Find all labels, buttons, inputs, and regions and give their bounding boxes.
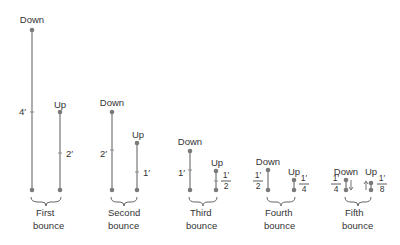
start-point-dot [30,28,35,33]
down-label: Down [20,14,44,25]
ground-point-dot [58,188,63,193]
caption-line2: bounce [264,220,295,231]
peak-point-dot [292,178,297,183]
caption-line1: Fifth [345,207,363,218]
caption-line2: bounce [108,220,139,231]
bounce-fifth: Down 1′ 4 Up 1′ 8 Fifth bounce [331,166,387,231]
ground-point-dot [188,188,193,193]
up-height-fraction: 1′ 4 [299,173,309,194]
fraction-denominator: 4 [334,184,339,194]
up-height-fraction: 1′ 2 [221,170,231,191]
fraction-denominator: 8 [380,184,385,194]
peak-point-dot [58,110,63,115]
up-label: Up [365,166,377,177]
peak-point-dot [214,169,219,174]
caption-line1: First [36,207,55,218]
curly-brace-icon [345,197,371,206]
down-height-label: 2′ [100,148,107,159]
start-point-dot [110,110,115,115]
up-label: Up [211,157,223,168]
start-point-dot [266,168,271,173]
down-height-fraction: 1′ 2 [253,170,263,191]
caption-line2: bounce [342,220,373,231]
up-height-label: 2′ [66,148,73,159]
up-arrow-icon [364,181,368,190]
caption-line2: bounce [186,220,217,231]
fraction-denominator: 2 [256,181,261,191]
down-arrow-icon [349,180,353,190]
bounce-first: Down 4′ Up 2′ First bounce [19,14,73,231]
caption-line1: Fourth [265,207,292,218]
caption-line1: Second [108,207,140,218]
down-label: Down [178,136,202,147]
start-point-dot [188,149,193,154]
down-height-label: 1′ [178,167,185,178]
bounce-second: Down 2′ Up 1′ Second bounce [100,97,150,231]
ground-point-dot [369,188,374,193]
ground-point-dot [30,188,35,193]
caption-line1: Third [190,207,212,218]
curly-brace-icon [111,197,137,206]
fraction-denominator: 4 [302,184,307,194]
fraction-numerator: 1′ [379,173,386,183]
up-label: Up [288,166,300,177]
caption-line2: bounce [33,220,64,231]
ground-point-dot [344,188,349,193]
up-height-fraction: 1′ 8 [377,173,387,194]
fraction-numerator: 1′ [255,170,262,180]
fraction-denominator: 2 [224,181,229,191]
down-height-label: 4′ [19,106,26,117]
ground-point-dot [110,188,115,193]
down-label: Down [100,97,124,108]
curly-brace-icon [31,197,61,206]
down-label: Down [256,156,280,167]
ground-point-dot [292,188,297,193]
up-label: Up [132,129,144,140]
bounce-diagram: Down 4′ Up 2′ First bounce Down 2′ Up 1′… [0,0,400,245]
ground-point-dot [266,188,271,193]
fraction-numerator: 1′ [223,170,230,180]
curly-brace-icon [189,197,217,206]
bounce-third: Down 1′ Up 1′ 2 Third bounce [178,136,231,231]
peak-point-dot [135,141,140,146]
fraction-numerator: 1′ [333,173,340,183]
ground-point-dot [214,188,219,193]
start-point-dot [344,178,349,183]
curly-brace-icon [267,197,295,206]
peak-point-dot [369,181,374,186]
bounce-fourth: Down 1′ 2 Up 1′ 4 Fourth bounce [253,156,309,231]
fraction-numerator: 1′ [301,173,308,183]
ground-point-dot [135,188,140,193]
up-label: Up [54,99,66,110]
up-height-label: 1′ [143,167,150,178]
